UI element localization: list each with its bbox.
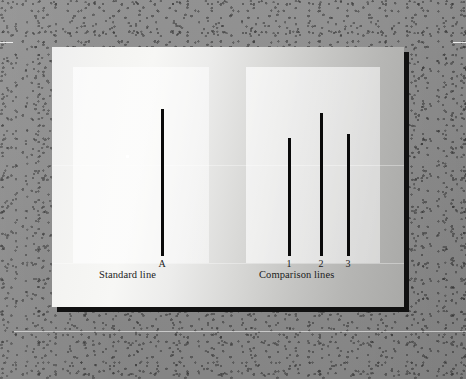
photo-speck-artifact xyxy=(126,155,129,158)
comparison-line-2 xyxy=(320,113,323,256)
asch-line-task-figure: A 1 2 3 Standard line Comparison lines xyxy=(0,0,466,379)
stimulus-card: A 1 2 3 Standard line Comparison lines xyxy=(52,47,404,307)
scan-artifact-left-line xyxy=(0,42,13,43)
standard-line-panel: A xyxy=(73,67,209,263)
standard-line-caption: Standard line xyxy=(99,269,156,280)
comparison-lines-panel: 1 2 3 xyxy=(246,67,380,263)
comparison-panel-surface xyxy=(246,67,380,263)
standard-panel-surface xyxy=(73,67,209,263)
scan-artifact-right-line xyxy=(453,42,466,43)
comparison-line-3-label: 3 xyxy=(340,258,356,270)
scan-artifact-bottom-line xyxy=(14,331,466,332)
comparison-line-1 xyxy=(288,138,291,256)
standard-line-a xyxy=(161,109,164,256)
comparison-line-3 xyxy=(347,134,350,256)
standard-line-a-label: A xyxy=(154,258,170,270)
comparison-lines-caption: Comparison lines xyxy=(259,269,334,280)
